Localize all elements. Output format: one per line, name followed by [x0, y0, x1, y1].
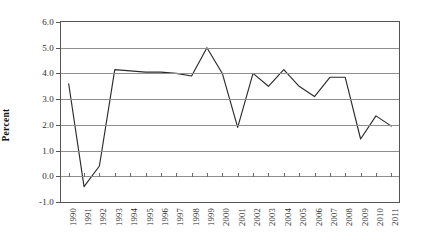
x-tick-label: 2007 — [329, 208, 339, 226]
y-tick-label: 2.0 — [42, 120, 54, 130]
gridline — [61, 73, 399, 74]
x-tick-mark — [376, 173, 377, 177]
gridline — [61, 125, 399, 126]
x-axis-tick-labels: 1990199119921993199419951996199719981999… — [0, 204, 424, 250]
x-tick-label: 1992 — [98, 208, 108, 226]
x-tick-mark — [146, 173, 147, 177]
x-tick-label: 2011 — [390, 208, 400, 226]
x-tick-label: 1998 — [191, 208, 201, 226]
y-tick-label: 0.0 — [42, 171, 54, 181]
x-tick-label: 1994 — [129, 208, 139, 226]
x-tick-mark — [238, 173, 239, 177]
x-tick-label: 2004 — [283, 208, 293, 226]
x-tick-label: 1991 — [83, 208, 93, 226]
y-tick-label: 3.0 — [42, 94, 54, 104]
x-tick-label: 2006 — [314, 208, 324, 226]
x-tick-label: 2002 — [252, 208, 262, 226]
x-tick-mark — [161, 173, 162, 177]
x-tick-mark — [330, 173, 331, 177]
x-tick-mark — [207, 173, 208, 177]
y-tick-label: 6.0 — [42, 17, 54, 27]
y-tick-label: 4.0 — [42, 68, 54, 78]
x-tick-mark — [115, 173, 116, 177]
zero-gridline — [61, 176, 399, 177]
x-tick-mark — [222, 173, 223, 177]
x-tick-label: 2009 — [360, 208, 370, 226]
x-tick-mark — [99, 173, 100, 177]
x-tick-label: 2010 — [375, 208, 385, 226]
x-tick-mark — [391, 173, 392, 177]
x-tick-label: 2003 — [267, 208, 277, 226]
x-tick-mark — [361, 173, 362, 177]
x-tick-mark — [84, 173, 85, 177]
x-tick-mark — [268, 173, 269, 177]
series-layer — [61, 22, 399, 202]
x-tick-label: 1995 — [145, 208, 155, 226]
x-tick-label: 1999 — [206, 208, 216, 226]
x-tick-mark — [315, 173, 316, 177]
x-tick-mark — [176, 173, 177, 177]
gridline — [61, 151, 399, 152]
x-tick-label: 1993 — [114, 208, 124, 226]
x-tick-label: 2005 — [298, 208, 308, 226]
x-tick-mark — [192, 173, 193, 177]
x-tick-label: 2008 — [344, 208, 354, 226]
x-tick-mark — [253, 173, 254, 177]
gridline — [61, 99, 399, 100]
x-tick-label: 1997 — [175, 208, 185, 226]
gridline — [61, 48, 399, 49]
x-tick-label: 2001 — [237, 208, 247, 226]
x-tick-mark — [345, 173, 346, 177]
x-tick-mark — [284, 173, 285, 177]
x-tick-mark — [69, 173, 70, 177]
series-line-percent — [69, 48, 392, 187]
line-chart: Percent 6.05.04.03.02.01.00.0-1.0 199019… — [0, 0, 424, 250]
y-tick-label: 1.0 — [42, 146, 54, 156]
plot-area — [60, 21, 400, 203]
y-tick-label: 5.0 — [42, 43, 54, 53]
x-tick-label: 2000 — [221, 208, 231, 226]
x-tick-mark — [130, 173, 131, 177]
x-tick-mark — [299, 173, 300, 177]
x-tick-label: 1990 — [68, 208, 78, 226]
x-tick-label: 1996 — [160, 208, 170, 226]
